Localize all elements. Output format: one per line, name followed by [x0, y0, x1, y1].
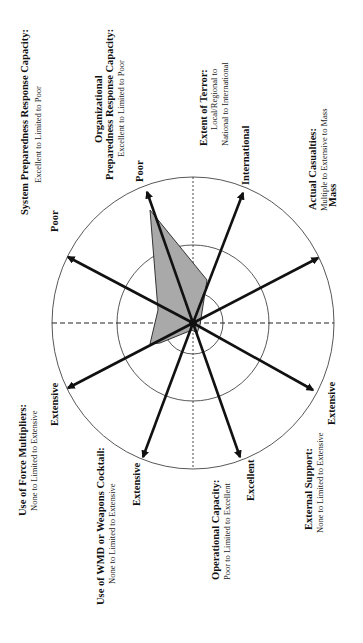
center-hub: [189, 319, 197, 327]
label-external-title: External Support:: [303, 448, 314, 530]
label-system-end: Poor: [49, 210, 60, 232]
profile-polygon: [150, 210, 207, 344]
arrow-external: [193, 323, 313, 390]
label-system-title: System Preparedness Response Capacity:: [19, 29, 30, 215]
label-operational-title: Operational Capacity:: [210, 479, 221, 580]
label-operational-end: Excellent: [245, 459, 256, 501]
label-force-subtitle: None to Limited to Extensive: [29, 410, 39, 511]
arrow-operational: [193, 323, 240, 457]
label-casualties-end: Mass: [327, 184, 338, 207]
label-terror-end: International: [240, 125, 251, 185]
label-external-end: Extensive: [326, 381, 337, 425]
label-casualties-title: Actual Casualties:: [307, 128, 318, 210]
label-wmd-end: Extensive: [131, 462, 142, 506]
label-org-title-2: Preparedness Response Capacity:: [104, 29, 115, 180]
arrow-casualties: [193, 258, 318, 323]
label-force-end: Extensive: [49, 382, 60, 426]
label-wmd-title: Use of WMD or Weapons Cocktail:: [95, 447, 106, 605]
label-wmd-subtitle: None to Limited to Extensive: [107, 483, 117, 584]
label-org-subtitle: Excellent to Limited to Poor: [116, 60, 126, 157]
radar-diagram: System Preparedness Response Capacity: E…: [0, 0, 363, 643]
label-terror-subtitle-2: National to International: [220, 62, 230, 146]
label-terror-subtitle-1: Local/Regional to: [209, 69, 219, 130]
arrow-force: [68, 323, 193, 388]
label-org-end: Poor: [134, 160, 145, 182]
label-force-title: Use of Force Multipliers:: [17, 404, 28, 516]
label-org-title-1: Organizational: [93, 75, 104, 143]
label-operational-subtitle: Poor to Limited to Excellent: [222, 483, 232, 580]
label-external-subtitle: None to Limited to Extensive: [315, 432, 325, 533]
label-system-subtitle: Excellent to Limited to Poor: [33, 86, 43, 183]
label-terror-title: Extent of Terror:: [198, 69, 209, 146]
radar-chart-svg: System Preparedness Response Capacity: E…: [0, 0, 363, 643]
